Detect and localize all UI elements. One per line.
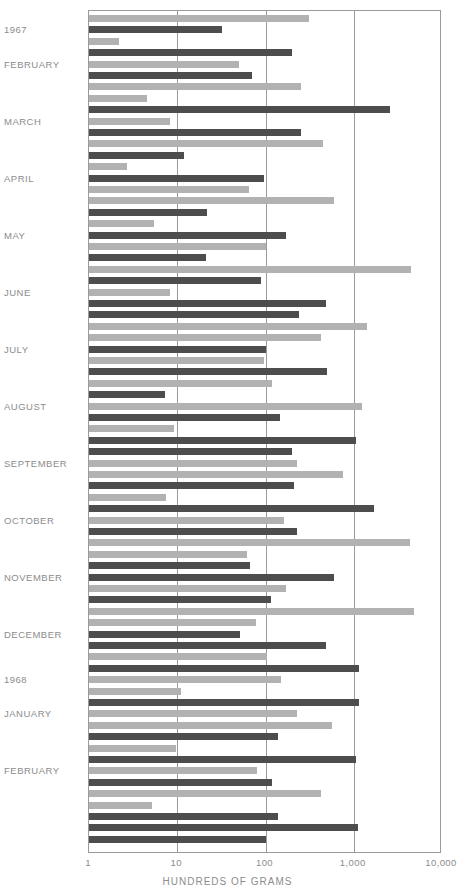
- y-axis-label-may: MAY: [4, 231, 80, 241]
- bar: [89, 140, 323, 147]
- y-axis-label-february: FEBRUARY: [4, 766, 80, 776]
- bar: [89, 642, 326, 649]
- bar: [89, 688, 181, 695]
- bar: [89, 596, 271, 603]
- bar: [89, 72, 252, 79]
- bar: [89, 61, 239, 68]
- y-axis-label-june: JUNE: [4, 288, 80, 298]
- bar: [89, 129, 301, 136]
- y-axis-label-1968: 1968: [4, 675, 80, 685]
- bar: [89, 437, 356, 444]
- bar: [89, 186, 249, 193]
- bar: [89, 517, 284, 524]
- y-axis-label-march: MARCH: [4, 117, 80, 127]
- bar: [89, 391, 165, 398]
- bar: [89, 574, 334, 581]
- bar: [89, 300, 326, 307]
- bar: [89, 767, 257, 774]
- y-axis-label-september: SEPTEMBER: [4, 459, 80, 469]
- bar: [89, 756, 356, 763]
- bar: [89, 368, 327, 375]
- bar: [89, 562, 250, 569]
- bar: [89, 824, 358, 831]
- bar: [89, 425, 174, 432]
- y-axis-label-july: JULY: [4, 345, 80, 355]
- bar: [89, 619, 256, 626]
- x-axis-tick-labels: 1101001,00010,000: [0, 857, 455, 873]
- x-axis-title: HUNDREDS OF GRAMS: [0, 876, 455, 887]
- bar: [89, 95, 147, 102]
- bar: [89, 471, 343, 478]
- bar: [89, 357, 264, 364]
- y-axis-label-february: FEBRUARY: [4, 60, 80, 70]
- plot-area: [88, 10, 441, 853]
- bar: [89, 745, 176, 752]
- bar: [89, 289, 170, 296]
- bar: [89, 710, 297, 717]
- bar: [89, 311, 299, 318]
- bar: [89, 494, 166, 501]
- bar: [89, 790, 321, 797]
- bar: [89, 448, 292, 455]
- bar: [89, 243, 266, 250]
- x-tick-1: 1: [85, 857, 91, 868]
- y-axis-label-august: AUGUST: [4, 402, 80, 412]
- bar: [89, 15, 309, 22]
- bar: [89, 175, 264, 182]
- y-axis-month-labels: 1967FEBRUARYMARCHAPRILMAYJUNEJULYAUGUSTS…: [0, 0, 84, 895]
- bar: [89, 197, 334, 204]
- bar: [89, 551, 247, 558]
- bar: [89, 779, 272, 786]
- bar: [89, 323, 367, 330]
- bar: [89, 585, 286, 592]
- bar: [89, 38, 119, 45]
- bar: [89, 676, 281, 683]
- bar: [89, 403, 362, 410]
- bar: [89, 266, 411, 273]
- bar: [89, 232, 286, 239]
- y-axis-label-april: APRIL: [4, 174, 80, 184]
- bar: [89, 152, 184, 159]
- bar: [89, 118, 170, 125]
- bar: [89, 49, 292, 56]
- bar: [89, 653, 267, 660]
- y-axis-label-october: OCTOBER: [4, 516, 80, 526]
- bar: [89, 106, 390, 113]
- bar: [89, 254, 206, 261]
- bar: [89, 220, 154, 227]
- bar: [89, 699, 359, 706]
- bar: [89, 277, 261, 284]
- x-tick-10: 10: [171, 857, 182, 868]
- x-tick-10000: 10,000: [425, 857, 456, 868]
- bar: [89, 209, 207, 216]
- y-axis-label-november: NOVEMBER: [4, 573, 80, 583]
- bar: [89, 836, 266, 843]
- bar: [89, 665, 359, 672]
- bar: [89, 334, 321, 341]
- y-axis-label-december: DECEMBER: [4, 630, 80, 640]
- bar: [89, 414, 280, 421]
- bar: [89, 380, 272, 387]
- bar: [89, 608, 414, 615]
- bar: [89, 733, 278, 740]
- bar: [89, 505, 374, 512]
- bar: [89, 802, 152, 809]
- bar: [89, 528, 297, 535]
- bar: [89, 482, 294, 489]
- bar: [89, 83, 301, 90]
- y-axis-label-january: JANUARY: [4, 709, 80, 719]
- x-tick-1000: 1,000: [340, 857, 366, 868]
- bar: [89, 26, 222, 33]
- bar: [89, 460, 297, 467]
- bar: [89, 163, 127, 170]
- bar: [89, 631, 240, 638]
- bar: [89, 539, 410, 546]
- y-axis-label-1967: 1967: [4, 25, 80, 35]
- x-tick-100: 100: [256, 857, 273, 868]
- bars-layer: [89, 11, 440, 852]
- bar: [89, 813, 278, 820]
- bar: [89, 346, 266, 353]
- bar: [89, 722, 332, 729]
